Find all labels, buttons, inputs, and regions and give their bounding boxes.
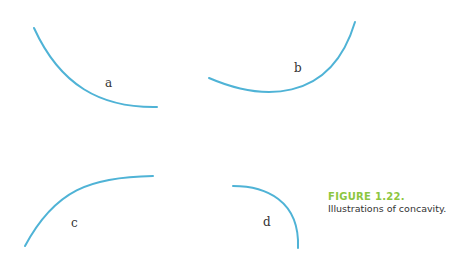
curve-b <box>209 22 355 92</box>
curve-a <box>34 28 157 107</box>
figure-caption: FIGURE 1.22. Illustrations of concavity. <box>328 191 446 215</box>
figure-caption-text: Illustrations of concavity. <box>328 203 446 215</box>
panel-label-d: d <box>263 216 271 228</box>
concavity-figure <box>0 0 464 257</box>
panel-label-a: a <box>105 77 112 89</box>
panel-label-c: c <box>71 217 78 229</box>
figure-number: FIGURE 1.22. <box>328 191 446 203</box>
curve-c <box>25 176 153 246</box>
panel-label-b: b <box>294 62 302 74</box>
